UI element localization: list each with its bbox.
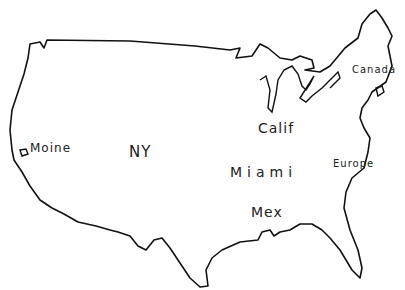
map-label-moine: Moine: [30, 141, 71, 155]
map-label-calif: Calif: [258, 120, 294, 136]
map-canvas: Moine NY Calif Miami Mex Europe Canada: [0, 0, 405, 290]
map-label-ny: NY: [129, 143, 151, 161]
map-label-mex: Mex: [251, 204, 283, 220]
map-label-miami: Miami: [230, 164, 297, 180]
map-label-europe: Europe: [333, 158, 374, 169]
map-label-canada: Canada: [352, 64, 396, 75]
